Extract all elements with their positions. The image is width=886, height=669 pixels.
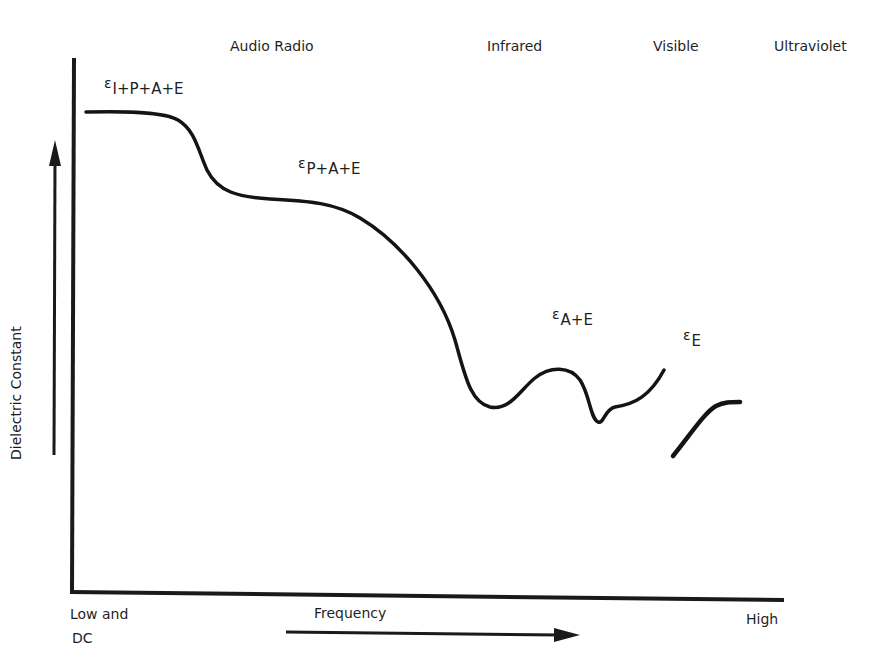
region-label-audio-radio: Audio Radio: [230, 38, 314, 54]
dielectric-curve-main: [86, 112, 664, 423]
x-direction-arrow-icon: [286, 628, 580, 642]
x-tick-high: High: [746, 611, 778, 627]
region-label-ultraviolet: Ultraviolet: [774, 38, 847, 54]
epsilon-symbol: ε: [298, 155, 306, 171]
annotation-subscript: I+P+A+E: [113, 80, 184, 98]
annotation-subscript: A+E: [561, 311, 593, 329]
x-axis-line: [70, 592, 784, 600]
annotation-eps-ae: εA+E: [552, 311, 593, 329]
annotation-eps-e: εE: [683, 332, 701, 350]
x-axis-label: Frequency: [314, 605, 386, 621]
annotation-subscript: P+A+E: [307, 160, 361, 178]
annotation-eps-ipae: εI+P+A+E: [104, 80, 184, 98]
chart-canvas: [0, 0, 886, 669]
y-direction-arrow-icon: [49, 140, 61, 455]
y-axis-line: [72, 58, 74, 591]
annotation-eps-pae: εP+A+E: [298, 160, 361, 178]
epsilon-symbol: ε: [552, 306, 560, 322]
annotation-subscript: E: [692, 332, 701, 350]
epsilon-symbol: ε: [683, 327, 691, 343]
epsilon-symbol: ε: [104, 75, 112, 91]
region-label-visible: Visible: [653, 38, 699, 54]
y-axis-label: Dielectric Constant: [8, 326, 24, 460]
x-tick-low-line2: DC: [72, 630, 93, 646]
x-tick-low-line1: Low and: [70, 606, 128, 622]
region-label-infrared: Infrared: [487, 38, 542, 54]
dielectric-curve-electronic: [673, 402, 740, 456]
